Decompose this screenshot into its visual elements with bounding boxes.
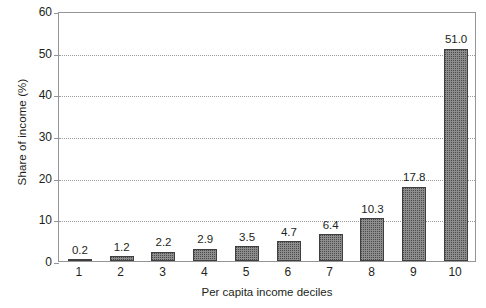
bar-value-label: 6.4 xyxy=(323,220,339,232)
y-axis-tick-label: 30 xyxy=(18,131,52,143)
x-axis-tick-label: 3 xyxy=(159,266,166,278)
bar-value-label: 1.2 xyxy=(114,242,130,254)
bar-slot: 0.2 xyxy=(59,13,101,261)
bar[interactable] xyxy=(235,246,259,261)
bar[interactable] xyxy=(277,241,301,261)
y-axis-tick-label: 60 xyxy=(18,6,52,18)
bar-value-label: 2.9 xyxy=(197,234,213,246)
x-axis-tick-label: 8 xyxy=(368,266,375,278)
bar-slot: 6.4 xyxy=(310,13,352,261)
x-axis-tick-label: 6 xyxy=(285,266,292,278)
x-axis-tick-label: 10 xyxy=(448,266,461,278)
x-axis-tick-label: 7 xyxy=(326,266,333,278)
bar-slot: 51.0 xyxy=(435,13,477,261)
bar-slot: 2.9 xyxy=(184,13,226,261)
bar-slot: 10.3 xyxy=(352,13,394,261)
y-axis-tick-label: 20 xyxy=(18,173,52,185)
bar-slot: 3.5 xyxy=(226,13,268,261)
bar-chart: Share of income (%) 0102030405060 0.21.2… xyxy=(0,0,486,308)
bar-value-label: 17.8 xyxy=(403,172,425,184)
bar-value-label: 51.0 xyxy=(445,34,467,46)
y-axis-tick-label: 40 xyxy=(18,89,52,101)
bar-value-label: 0.2 xyxy=(72,245,88,257)
x-axis-tick-labels: 12345678910 xyxy=(58,264,476,284)
y-axis-tick-label: 0 xyxy=(18,256,52,268)
bar[interactable] xyxy=(402,187,426,261)
bars-layer: 0.21.22.22.93.54.76.410.317.851.0 xyxy=(59,13,475,261)
x-axis-title: Per capita income deciles xyxy=(58,286,476,298)
bar[interactable] xyxy=(68,259,92,261)
bar-value-label: 4.7 xyxy=(281,227,297,239)
bar[interactable] xyxy=(193,249,217,261)
bar[interactable] xyxy=(444,49,468,262)
bar[interactable] xyxy=(360,218,384,261)
x-axis-tick-label: 1 xyxy=(76,266,83,278)
bar[interactable] xyxy=(319,234,343,261)
bar-value-label: 3.5 xyxy=(239,232,255,244)
bar-slot: 4.7 xyxy=(268,13,310,261)
y-axis-tick-label: 10 xyxy=(18,214,52,226)
x-axis-tick-label: 2 xyxy=(117,266,124,278)
bar[interactable] xyxy=(110,256,134,261)
bar-slot: 17.8 xyxy=(393,13,435,261)
bar[interactable] xyxy=(151,252,175,261)
bar-value-label: 2.2 xyxy=(155,237,171,249)
bar-slot: 2.2 xyxy=(143,13,185,261)
x-axis-tick-label: 5 xyxy=(243,266,250,278)
plot-area: 0.21.22.22.93.54.76.410.317.851.0 xyxy=(58,12,476,262)
x-axis-tick-label: 9 xyxy=(410,266,417,278)
bar-slot: 1.2 xyxy=(101,13,143,261)
bar-value-label: 10.3 xyxy=(361,204,383,216)
x-axis-tick-label: 4 xyxy=(201,266,208,278)
y-axis-tick-label: 50 xyxy=(18,48,52,60)
y-axis-tick-labels: 0102030405060 xyxy=(20,0,52,308)
